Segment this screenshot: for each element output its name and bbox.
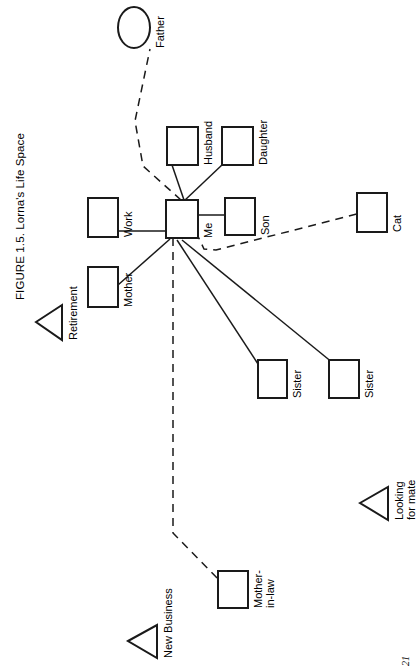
node-label-father: Father (154, 16, 166, 48)
goal-label-new-business: New Business (162, 588, 174, 658)
page-number: 21 (400, 656, 411, 666)
link-me-daughter (184, 164, 223, 201)
node-label-mother: Mother (122, 273, 134, 307)
goals-layer (36, 305, 388, 658)
node-me (166, 200, 198, 238)
goal-label-retirement: Retirement (67, 286, 79, 340)
node-label-son: Son (259, 215, 271, 235)
node-father (118, 7, 150, 48)
link-me-cat (196, 214, 357, 250)
goal-looking-for-mate (360, 487, 388, 520)
figure-page: FatherHusbandDaughterWorkMeSonCatMotherS… (0, 0, 416, 670)
node-mother-in-law (218, 571, 248, 608)
link-me-mother-in-law (173, 238, 219, 580)
nodes-layer (88, 7, 387, 608)
node-label-me: Me (202, 223, 214, 238)
node-label-mother-in-law: Mother- in-law (252, 570, 277, 608)
node-label-sister2: Sister (363, 370, 375, 398)
ecomap-canvas (0, 0, 416, 670)
link-me-sister2 (182, 240, 333, 363)
link-me-father (135, 49, 181, 200)
node-label-work: Work (122, 212, 134, 237)
page-title: FIGURE 1.5. Lorna's Life Space (14, 133, 27, 300)
node-label-daughter: Daughter (257, 120, 269, 165)
node-daughter (222, 127, 253, 165)
goal-new-business (128, 625, 157, 658)
node-husband (167, 127, 198, 165)
node-work (88, 198, 118, 237)
link-me-sister1 (177, 240, 260, 367)
node-label-sister1: Sister (291, 370, 303, 398)
link-me-husband (172, 165, 184, 200)
node-cat (357, 193, 387, 232)
node-sister1 (258, 360, 287, 398)
node-mother (88, 267, 118, 307)
goal-label-looking-for-mate: Looking for mate (393, 480, 416, 520)
node-label-cat: Cat (391, 215, 403, 232)
node-sister2 (329, 360, 359, 398)
node-son (225, 198, 255, 235)
goal-retirement (36, 305, 62, 340)
node-label-husband: Husband (202, 121, 214, 165)
